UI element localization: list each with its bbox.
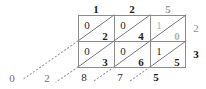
cell-r0c2-tens: 1 [154,20,164,31]
cell-r0c1-tens: 0 [118,20,128,31]
grid-lines [79,16,186,68]
result-digit-1: 0 [6,73,18,84]
right-factor-digit-2: 3 [190,49,202,60]
cell-r1c2-units: 5 [172,57,182,68]
cell-r1c0-units: 3 [100,57,110,68]
cell-r0c0-units: 2 [100,31,110,42]
top-factor-digit-1: 1 [89,4,103,15]
right-factor-digit-1: 2 [190,23,202,34]
cell-r0c2-units: 0 [172,31,182,42]
top-factor-digit-2: 2 [125,4,139,15]
cell-r0c0-tens: 0 [82,20,92,31]
lattice-multiplication-diagram: 1 2 5 2 3 0 2 0 4 1 0 0 3 0 6 1 5 0 2 8 … [0,0,206,89]
result-digit-5: 5 [150,72,162,83]
result-digit-3: 8 [78,72,90,83]
cell-r1c2-tens: 1 [154,46,164,57]
cell-r1c1-tens: 0 [118,46,128,57]
cell-r1c1-units: 6 [136,57,146,68]
cell-r0c1-units: 4 [136,31,146,42]
cell-diagonals [78,15,186,67]
result-digit-2: 2 [41,73,53,84]
cell-r1c0-tens: 0 [82,46,92,57]
top-factor-digit-3: 5 [161,4,175,15]
result-digit-4: 7 [114,72,126,83]
lattice-lines-layer [0,0,206,89]
